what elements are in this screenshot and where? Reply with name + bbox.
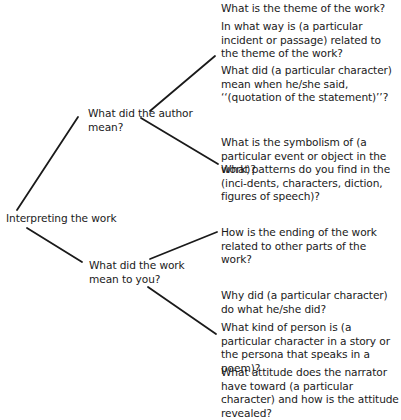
- branch-author-label-line2: mean?: [88, 120, 193, 134]
- branch-reader-label-line2: mean to you?: [89, 272, 185, 286]
- question-narrator-attitude: What attitude does the narrator have tow…: [221, 366, 399, 420]
- branch-author-label-line1: What did the author: [88, 106, 193, 120]
- question-character-motive: Why did (a particular character) do what…: [221, 289, 399, 316]
- connector-reader-to-upper: [150, 232, 217, 259]
- connector-root-to-reader: [27, 228, 82, 262]
- connector-reader-to-lower: [148, 287, 216, 334]
- question-character-meaning: What did (a particular character) mean w…: [221, 64, 399, 105]
- question-patterns: What patterns do you find in the (inci-d…: [221, 163, 399, 204]
- branch-reader-node: What did the work mean to you?: [89, 258, 185, 286]
- question-ending: How is the ending of the work related to…: [221, 226, 399, 267]
- question-theme: What is the theme of the work?: [221, 2, 399, 16]
- root-node: Interpreting the work: [6, 211, 116, 225]
- root-label: Interpreting the work: [6, 212, 116, 224]
- connector-author-to-upper: [150, 56, 215, 111]
- branch-reader-label-line1: What did the work: [89, 258, 185, 272]
- branch-author-node: What did the author mean?: [88, 106, 193, 134]
- connector-root-to-author: [17, 117, 78, 210]
- question-incident-theme: In what way is (a particular incident or…: [221, 20, 399, 61]
